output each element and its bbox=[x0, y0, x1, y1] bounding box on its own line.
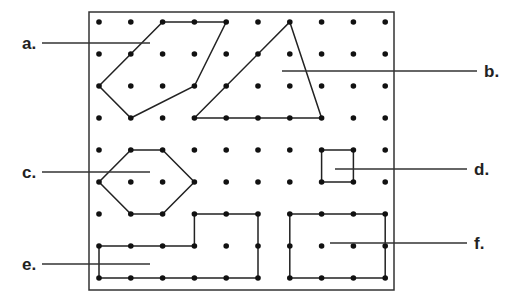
peg bbox=[192, 115, 198, 121]
shape-c bbox=[99, 150, 194, 214]
peg bbox=[319, 51, 325, 57]
peg bbox=[255, 83, 261, 89]
peg bbox=[287, 115, 293, 121]
peg bbox=[223, 147, 229, 153]
peg bbox=[96, 243, 102, 249]
peg bbox=[223, 83, 229, 89]
peg bbox=[351, 179, 357, 185]
peg bbox=[192, 179, 198, 185]
peg bbox=[382, 243, 388, 249]
peg bbox=[255, 115, 261, 121]
label-d: d. bbox=[474, 160, 489, 180]
peg bbox=[287, 83, 293, 89]
peg bbox=[128, 115, 134, 121]
peg bbox=[382, 147, 388, 153]
shape-f bbox=[290, 214, 385, 278]
board-frame bbox=[89, 12, 394, 290]
peg bbox=[128, 147, 134, 153]
shape-e bbox=[99, 214, 258, 278]
peg bbox=[96, 115, 102, 121]
peg bbox=[319, 179, 325, 185]
peg bbox=[223, 243, 229, 249]
peg bbox=[319, 19, 325, 25]
peg bbox=[223, 19, 229, 25]
peg bbox=[160, 275, 166, 281]
peg bbox=[351, 211, 357, 217]
peg bbox=[382, 211, 388, 217]
label-a: a. bbox=[22, 34, 36, 54]
peg bbox=[160, 19, 166, 25]
peg bbox=[223, 51, 229, 57]
peg bbox=[382, 115, 388, 121]
peg bbox=[96, 83, 102, 89]
peg bbox=[192, 147, 198, 153]
peg bbox=[96, 211, 102, 217]
peg bbox=[96, 179, 102, 185]
peg bbox=[128, 83, 134, 89]
peg bbox=[255, 243, 261, 249]
peg bbox=[192, 51, 198, 57]
peg bbox=[192, 275, 198, 281]
peg bbox=[223, 211, 229, 217]
peg bbox=[192, 83, 198, 89]
peg bbox=[223, 179, 229, 185]
peg bbox=[255, 275, 261, 281]
peg bbox=[192, 211, 198, 217]
peg bbox=[351, 147, 357, 153]
peg bbox=[351, 243, 357, 249]
peg bbox=[96, 275, 102, 281]
peg bbox=[96, 51, 102, 57]
peg bbox=[382, 51, 388, 57]
peg bbox=[255, 19, 261, 25]
geoboard-diagram bbox=[0, 0, 515, 305]
peg bbox=[96, 19, 102, 25]
peg bbox=[160, 51, 166, 57]
peg bbox=[192, 243, 198, 249]
peg bbox=[382, 275, 388, 281]
peg bbox=[319, 115, 325, 121]
peg bbox=[128, 179, 134, 185]
peg bbox=[351, 83, 357, 89]
shape-d bbox=[322, 150, 354, 182]
peg bbox=[382, 83, 388, 89]
peg bbox=[351, 115, 357, 121]
peg bbox=[382, 19, 388, 25]
shape-b bbox=[194, 22, 321, 118]
peg bbox=[319, 83, 325, 89]
peg bbox=[287, 19, 293, 25]
peg bbox=[160, 147, 166, 153]
peg bbox=[287, 179, 293, 185]
peg bbox=[160, 211, 166, 217]
peg bbox=[287, 211, 293, 217]
peg bbox=[287, 275, 293, 281]
peg bbox=[128, 19, 134, 25]
peg bbox=[319, 275, 325, 281]
peg bbox=[351, 19, 357, 25]
peg bbox=[160, 179, 166, 185]
peg bbox=[255, 51, 261, 57]
label-f: f. bbox=[474, 234, 484, 254]
peg bbox=[255, 179, 261, 185]
peg bbox=[160, 83, 166, 89]
label-c: c. bbox=[22, 163, 36, 183]
peg bbox=[319, 211, 325, 217]
peg bbox=[287, 147, 293, 153]
peg bbox=[192, 19, 198, 25]
peg bbox=[255, 147, 261, 153]
peg bbox=[160, 243, 166, 249]
peg bbox=[128, 243, 134, 249]
peg bbox=[351, 51, 357, 57]
peg bbox=[382, 179, 388, 185]
peg bbox=[351, 275, 357, 281]
shape-a bbox=[99, 22, 226, 118]
peg bbox=[128, 211, 134, 217]
peg bbox=[287, 243, 293, 249]
label-e: e. bbox=[22, 255, 36, 275]
peg bbox=[128, 51, 134, 57]
peg bbox=[160, 115, 166, 121]
peg bbox=[319, 147, 325, 153]
peg bbox=[96, 147, 102, 153]
peg bbox=[319, 243, 325, 249]
label-b: b. bbox=[484, 62, 499, 82]
peg bbox=[255, 211, 261, 217]
